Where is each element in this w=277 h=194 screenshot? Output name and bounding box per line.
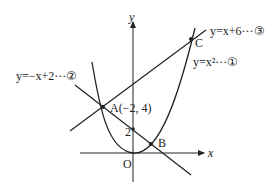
function-graph-diagram: y x O y=x+6···③ y=x²···① y=−x+2···② A(−2… <box>0 0 277 194</box>
line-3 <box>70 30 206 131</box>
origin-label: O <box>123 158 132 170</box>
parabola-label: y=x²···① <box>193 56 238 68</box>
point-y-intercept <box>131 127 135 131</box>
point-b <box>149 142 153 146</box>
line-3-label: y=x+6···③ <box>210 25 265 37</box>
y-intercept-label: 2 <box>125 126 131 138</box>
line-2-label: y=−x+2···② <box>16 70 77 82</box>
point-a-label: A(−2, 4) <box>110 102 151 114</box>
point-c-label: C <box>195 37 203 49</box>
point-c <box>189 37 193 41</box>
point-b-label: B <box>158 137 166 149</box>
point-a <box>101 105 105 109</box>
x-axis-label: x <box>208 147 213 159</box>
y-axis-label: y <box>129 11 134 23</box>
parabola-curve <box>92 28 195 153</box>
